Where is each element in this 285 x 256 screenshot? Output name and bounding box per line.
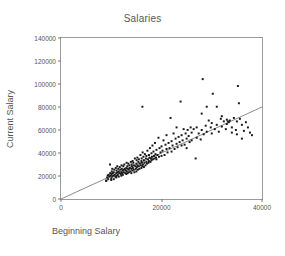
data-point xyxy=(119,166,121,168)
data-point xyxy=(128,164,130,166)
data-point xyxy=(233,117,235,119)
data-point xyxy=(169,147,171,149)
data-point xyxy=(155,149,157,151)
data-point xyxy=(122,174,124,176)
data-point xyxy=(166,134,168,136)
data-point xyxy=(133,169,135,171)
data-point xyxy=(184,144,186,146)
data-point xyxy=(145,157,147,159)
data-point xyxy=(143,166,145,168)
data-point xyxy=(200,139,202,141)
plot-area: 020000400006000080000100000120000140000 … xyxy=(60,37,263,200)
data-point xyxy=(208,120,210,122)
data-point xyxy=(186,147,188,149)
data-point xyxy=(130,161,132,163)
data-point xyxy=(178,136,180,138)
data-point xyxy=(185,132,187,134)
data-point xyxy=(136,157,138,159)
data-point xyxy=(168,142,170,144)
data-point xyxy=(161,155,163,157)
data-point xyxy=(114,174,116,176)
data-point xyxy=(135,168,137,170)
data-point xyxy=(229,120,231,122)
data-point xyxy=(126,162,128,164)
data-point xyxy=(150,152,152,154)
data-point xyxy=(206,131,208,133)
data-point xyxy=(145,161,147,163)
data-point xyxy=(138,158,140,160)
data-point xyxy=(115,176,117,178)
data-point xyxy=(113,171,115,173)
data-point xyxy=(133,171,135,173)
data-point xyxy=(175,138,177,140)
data-point xyxy=(236,120,238,122)
data-point xyxy=(136,159,138,161)
y-tick-mark xyxy=(58,130,61,131)
data-point xyxy=(132,167,134,169)
x-tick-mark xyxy=(161,199,162,202)
data-point xyxy=(176,126,178,128)
data-point xyxy=(128,169,130,171)
data-point xyxy=(189,141,191,143)
data-point xyxy=(146,150,148,152)
data-point xyxy=(196,126,198,128)
y-tick-mark xyxy=(58,38,61,39)
data-point xyxy=(179,141,181,143)
data-point xyxy=(132,162,134,164)
data-point xyxy=(109,164,111,166)
data-point xyxy=(118,176,120,178)
data-point xyxy=(223,120,225,122)
data-point xyxy=(127,163,129,165)
data-point xyxy=(139,154,141,156)
data-point xyxy=(129,170,131,172)
data-point xyxy=(142,164,144,166)
data-point xyxy=(136,166,138,168)
data-point xyxy=(187,129,189,131)
data-point xyxy=(171,151,173,153)
y-tick-mark xyxy=(58,107,61,108)
plot-svg xyxy=(61,38,262,199)
scatter-chart: Salaries 0200004000060000800001000001200… xyxy=(0,0,285,256)
data-point xyxy=(191,139,193,141)
y-axis-label: Current Salary xyxy=(5,90,15,148)
data-point xyxy=(249,132,251,134)
data-point xyxy=(157,137,159,139)
y-tick-mark xyxy=(58,153,61,154)
data-point xyxy=(214,128,216,130)
data-point xyxy=(195,157,197,159)
data-point xyxy=(203,133,205,135)
data-point xyxy=(155,158,157,160)
data-point xyxy=(161,145,163,147)
data-point xyxy=(247,126,249,128)
data-point xyxy=(159,151,161,153)
data-point xyxy=(220,118,222,120)
data-point xyxy=(154,142,156,144)
data-point xyxy=(122,165,124,167)
data-point xyxy=(126,170,128,172)
data-point xyxy=(167,151,169,153)
data-point xyxy=(135,163,137,165)
x-tick-mark xyxy=(61,199,62,202)
data-point xyxy=(131,165,133,167)
data-point xyxy=(156,154,158,156)
data-point xyxy=(143,159,145,161)
plot-canvas xyxy=(61,38,262,199)
data-point xyxy=(110,179,112,181)
data-point xyxy=(132,160,134,162)
data-point xyxy=(163,139,165,141)
data-point xyxy=(121,168,123,170)
data-point xyxy=(251,134,253,136)
data-point xyxy=(115,167,117,169)
y-tick-mark xyxy=(58,84,61,85)
data-point xyxy=(158,147,160,149)
data-point xyxy=(152,151,154,153)
data-point xyxy=(165,144,167,146)
data-point xyxy=(108,174,110,176)
data-point xyxy=(106,176,108,178)
data-point xyxy=(181,145,183,147)
data-point xyxy=(166,148,168,150)
data-point xyxy=(201,113,203,115)
data-point xyxy=(180,101,182,103)
data-point xyxy=(116,165,118,167)
data-point xyxy=(218,131,220,133)
